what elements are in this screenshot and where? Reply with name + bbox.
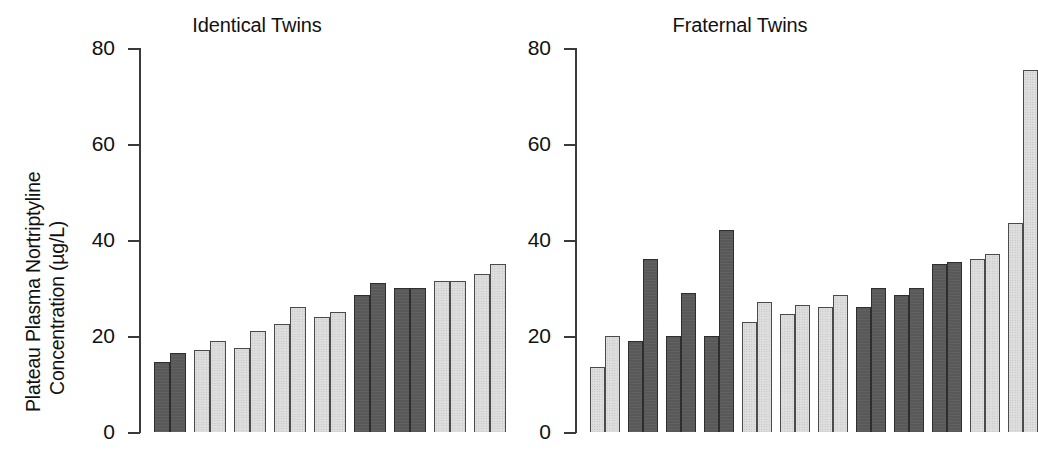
- y-axis-tick-0-right: 0: [564, 432, 576, 434]
- bar: [795, 305, 810, 432]
- panel-identical-twins: Identical Twins 806040200: [62, 0, 512, 460]
- y-axis-tick-60-right: 60: [564, 144, 576, 146]
- bar: [742, 322, 757, 432]
- y-axis-tick-label-60-right: 60: [528, 133, 551, 154]
- bar-pair: [234, 331, 266, 432]
- bar: [605, 336, 620, 432]
- bar-group-identical-twins: [141, 48, 506, 432]
- bar-pair: [474, 264, 506, 432]
- bar: [450, 281, 466, 432]
- bar-pair: [742, 302, 772, 432]
- bar: [780, 314, 795, 432]
- y-axis-tick-label-20-left: 20: [92, 325, 115, 346]
- bar-pair: [434, 281, 466, 432]
- bar: [170, 353, 186, 432]
- y-axis-tick-40-right: 40: [564, 240, 576, 242]
- y-axis-tick-80-right: 80: [564, 48, 576, 50]
- bar-pair: [154, 353, 186, 432]
- bar: [210, 341, 226, 432]
- panel-fraternal-twins: Fraternal Twins 806040200: [520, 0, 1033, 460]
- y-axis-label-line-1: Plateau Plasma Nortriptyline: [22, 172, 45, 412]
- y-axis-tick-label-40-left: 40: [92, 229, 115, 250]
- bar-pair: [1008, 70, 1038, 432]
- bar: [666, 336, 681, 432]
- bar: [856, 307, 871, 432]
- bar: [274, 324, 290, 432]
- bar: [434, 281, 450, 432]
- bar: [719, 230, 734, 432]
- bar: [985, 254, 1000, 432]
- bar: [833, 295, 848, 432]
- panel-title-identical-twins: Identical Twins: [72, 14, 442, 37]
- y-axis-tick-label-60-left: 60: [92, 133, 115, 154]
- bar: [250, 331, 266, 432]
- y-axis-tick-20-left: 20: [128, 336, 140, 338]
- y-axis-tick-0-left: 0: [128, 432, 140, 434]
- plot-area-fraternal-twins: 806040200: [575, 48, 1020, 432]
- bar-pair: [628, 259, 658, 432]
- bar-pair: [894, 288, 924, 432]
- bar: [330, 312, 346, 432]
- bar: [1023, 70, 1038, 432]
- bar: [947, 262, 962, 432]
- bar-pair: [704, 230, 734, 432]
- bar: [490, 264, 506, 432]
- y-axis-tick-20-right: 20: [564, 336, 576, 338]
- bar: [628, 341, 643, 432]
- bar: [410, 288, 426, 432]
- bar: [290, 307, 306, 432]
- bar: [757, 302, 772, 432]
- bar: [1008, 223, 1023, 432]
- bar: [643, 259, 658, 432]
- bar: [894, 295, 909, 432]
- bar: [394, 288, 410, 432]
- bar: [314, 317, 330, 432]
- y-axis-tick-60-left: 60: [128, 144, 140, 146]
- plot-area-identical-twins: 806040200: [139, 48, 499, 432]
- bar-group-fraternal-twins: [577, 48, 1038, 432]
- bar-pair: [666, 293, 696, 432]
- bar-pair: [780, 305, 810, 432]
- y-axis-tick-80-left: 80: [128, 48, 140, 50]
- bar: [370, 283, 386, 432]
- bar: [871, 288, 886, 432]
- bar-pair: [932, 262, 962, 432]
- bar-pair: [314, 312, 346, 432]
- bar-pair: [194, 341, 226, 432]
- y-axis-tick-label-40-right: 40: [528, 229, 551, 250]
- bar: [818, 307, 833, 432]
- bar: [354, 295, 370, 432]
- y-axis-tick-label-80-right: 80: [528, 37, 551, 58]
- bar: [932, 264, 947, 432]
- y-axis-label: Plateau Plasma Nortriptyline Concentrati…: [0, 0, 62, 460]
- y-axis-tick-40-left: 40: [128, 240, 140, 242]
- bar: [234, 348, 250, 432]
- bar: [909, 288, 924, 432]
- panel-title-fraternal-twins: Fraternal Twins: [530, 14, 950, 37]
- bar: [194, 350, 210, 432]
- y-axis-tick-label-0-left: 0: [103, 421, 115, 442]
- bar-pair: [818, 295, 848, 432]
- y-axis-tick-label-80-left: 80: [92, 37, 115, 58]
- bar-pair: [274, 307, 306, 432]
- bar: [704, 336, 719, 432]
- bar-pair: [354, 283, 386, 432]
- bar-pair: [590, 336, 620, 432]
- bar: [154, 362, 170, 432]
- bar-pair: [394, 288, 426, 432]
- bar: [681, 293, 696, 432]
- bar: [590, 367, 605, 432]
- bar: [970, 259, 985, 432]
- bar: [474, 274, 490, 432]
- bar-pair: [856, 288, 886, 432]
- bar-pair: [970, 254, 1000, 432]
- y-axis-tick-label-20-right: 20: [528, 325, 551, 346]
- y-axis-tick-label-0-right: 0: [539, 421, 551, 442]
